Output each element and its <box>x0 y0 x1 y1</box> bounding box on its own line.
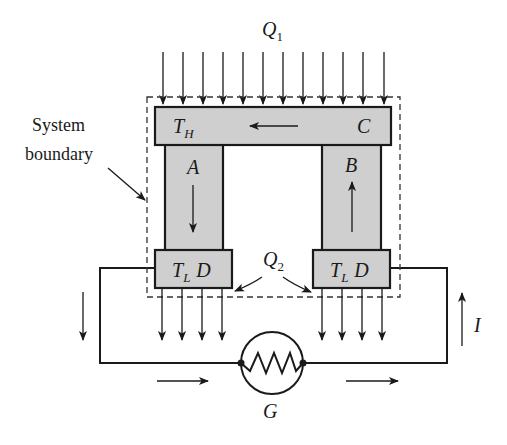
hot-junction-label: C <box>357 115 371 137</box>
system-boundary-label: System boundary <box>25 115 93 164</box>
cold-junction-block-right <box>313 250 390 288</box>
heat-input-label: Q1 <box>262 18 283 44</box>
q2-pointer-left-icon <box>235 277 262 291</box>
heat-input-arrows <box>163 52 384 104</box>
terminal-left <box>238 360 245 367</box>
generator-label: G <box>263 400 278 422</box>
current-label: I <box>473 314 482 336</box>
q2-pointer-right-icon <box>283 277 311 292</box>
thermoelectric-diagram: Q1 TH C A B TLD TLD Q2 <box>0 0 507 445</box>
svg-text:Q1: Q1 <box>262 18 283 44</box>
svg-text:System: System <box>32 115 85 135</box>
heat-output-arrows-left <box>162 288 222 340</box>
heat-output-label: Q2 <box>263 248 284 274</box>
leg-b-label: B <box>345 154 357 176</box>
generator-load: G <box>238 332 307 422</box>
leg-a-label: A <box>185 156 200 178</box>
heat-output-arrows-right <box>322 288 382 340</box>
terminal-right <box>300 360 307 367</box>
boundary-pointer-arrow-icon <box>108 168 145 200</box>
cold-junction-block-left <box>155 250 232 288</box>
svg-text:boundary: boundary <box>25 144 93 164</box>
